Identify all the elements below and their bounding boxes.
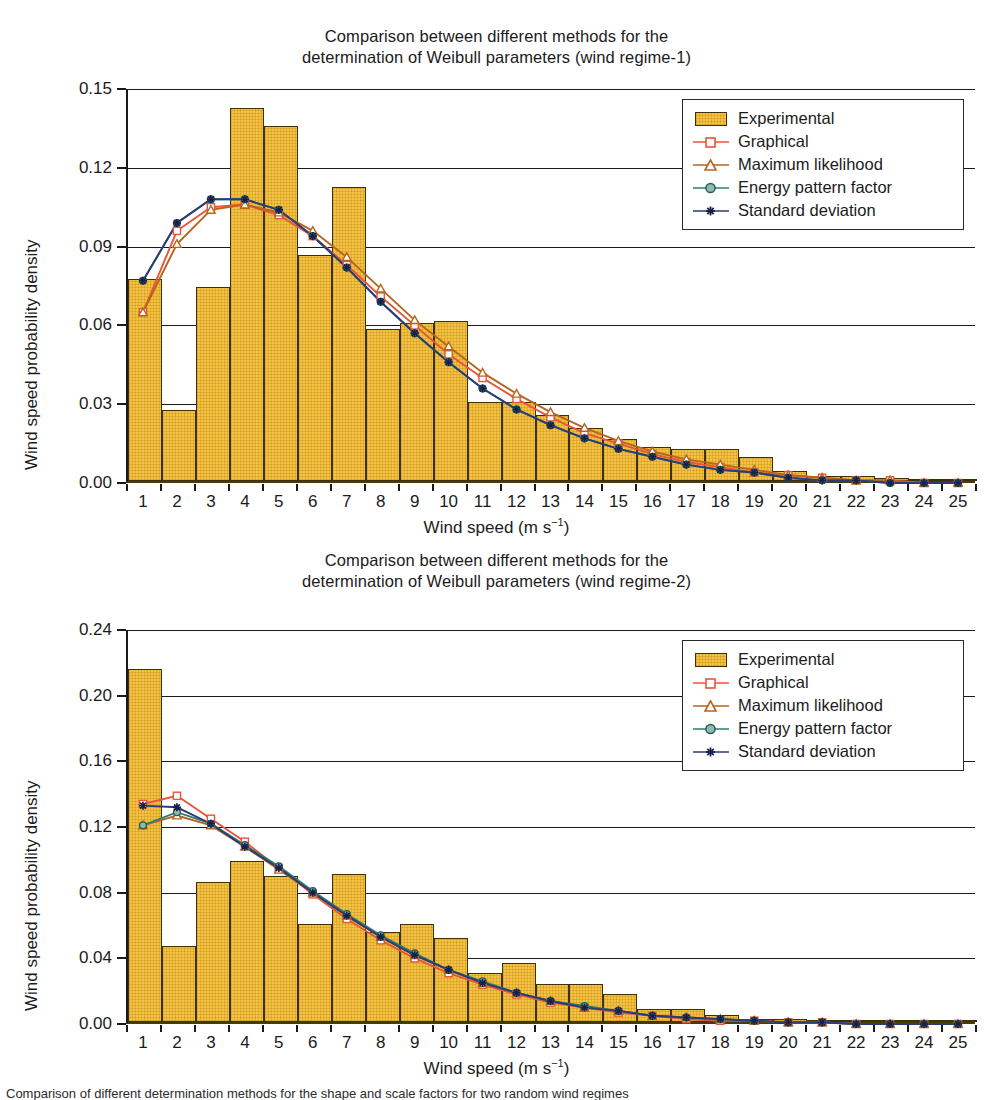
legend-marker-open-triangle-icon — [692, 155, 730, 175]
x-axis-tick — [398, 484, 400, 491]
x-axis-tick — [703, 1025, 705, 1032]
series-line-energy-pattern-factor — [143, 812, 958, 1024]
legend-marker-filled-circle-icon — [692, 178, 730, 198]
x-axis-tick — [601, 1025, 603, 1032]
x-axis-tick — [330, 1025, 332, 1032]
legend-swatch-bar-icon — [692, 109, 730, 129]
legend-item-maximum-likelihood[interactable]: Maximum likelihood — [692, 694, 952, 717]
x-axis-tick-label: 10 — [439, 492, 458, 512]
x-axis-tick — [160, 1025, 162, 1032]
x-axis-tick — [126, 1025, 128, 1032]
x-axis-tick-label: 11 — [474, 1033, 492, 1053]
x-axis-tick — [500, 484, 502, 491]
y-axis-tick — [117, 482, 126, 484]
y-axis-tick — [117, 88, 126, 90]
x-axis-tick-label: 4 — [240, 492, 249, 512]
legend-item-experimental[interactable]: Experimental — [692, 648, 952, 671]
x-axis-tick — [296, 484, 298, 491]
legend-marker-open-triangle-icon — [692, 696, 730, 716]
legend-item-standard-deviation[interactable]: Standard deviation — [692, 199, 952, 222]
x-axis-tick — [635, 1025, 637, 1032]
x-axis-tick-label: 2 — [172, 492, 181, 512]
x-axis-tick-label: 12 — [507, 492, 526, 512]
legend-marker-asterisk-icon — [692, 201, 730, 221]
x-axis-tick — [228, 1025, 230, 1032]
legend-label: Maximum likelihood — [738, 155, 883, 174]
y-axis-tick — [117, 1023, 126, 1025]
chart2-y-axis-title: Wind speed probability density — [22, 780, 42, 1011]
chart2-title-line1: Comparison between different methods for… — [0, 550, 993, 571]
series-line-standard-deviation — [143, 199, 958, 483]
y-axis-tick — [117, 167, 126, 169]
legend-item-graphical[interactable]: Graphical — [692, 671, 952, 694]
x-axis-tick-label: 9 — [410, 492, 419, 512]
x-axis-tick-label: 6 — [308, 1033, 317, 1053]
chart2-x-axis-title: Wind speed (m s−1) — [0, 1057, 993, 1079]
x-axis-tick — [534, 1025, 536, 1032]
chart1-title-line1: Comparison between different methods for… — [0, 26, 993, 47]
legend-item-experimental[interactable]: Experimental — [692, 107, 952, 130]
x-axis-tick-label: 22 — [847, 492, 866, 512]
y-axis-tick-label: 0.12 — [79, 817, 112, 837]
y-axis-tick-label: 0.00 — [79, 1014, 112, 1034]
x-axis-tick — [737, 484, 739, 491]
x-axis-tick — [975, 1025, 977, 1032]
x-axis-tick-label: 12 — [507, 1033, 526, 1053]
y-axis-tick — [117, 629, 126, 631]
legend-item-energy-pattern-factor[interactable]: Energy pattern factor — [692, 717, 952, 740]
y-axis-tick-label: 0.24 — [79, 620, 112, 640]
x-axis-tick-label: 2 — [172, 1033, 181, 1053]
x-axis-tick — [601, 484, 603, 491]
x-axis-tick-label: 18 — [711, 1033, 730, 1053]
x-axis-tick — [873, 484, 875, 491]
x-axis-tick — [839, 1025, 841, 1032]
x-axis-tick-label: 4 — [240, 1033, 249, 1053]
legend-item-energy-pattern-factor[interactable]: Energy pattern factor — [692, 176, 952, 199]
chart1-x-axis-title-text: Wind speed (m s−1) — [424, 518, 570, 537]
x-axis-tick — [432, 1025, 434, 1032]
x-axis-tick-label: 8 — [376, 492, 385, 512]
x-axis-tick-label: 16 — [643, 1033, 662, 1053]
x-axis-tick-label: 17 — [677, 492, 696, 512]
x-axis-tick — [500, 1025, 502, 1032]
x-axis-tick — [669, 1025, 671, 1032]
x-axis-tick — [907, 484, 909, 491]
series-line-graphical — [143, 796, 958, 1024]
x-axis-tick — [466, 1025, 468, 1032]
x-axis-tick — [228, 484, 230, 491]
y-axis-tick — [117, 760, 126, 762]
x-axis-tick-label: 10 — [439, 1033, 458, 1053]
x-axis-tick — [398, 1025, 400, 1032]
y-axis-tick-label: 0.20 — [79, 686, 112, 706]
x-axis-tick — [941, 484, 943, 491]
x-axis-tick-label: 21 — [813, 1033, 832, 1053]
x-axis-tick — [364, 484, 366, 491]
legend-marker-open-square-icon — [692, 673, 730, 693]
x-axis-tick-label: 24 — [915, 1033, 934, 1053]
legend-item-maximum-likelihood[interactable]: Maximum likelihood — [692, 153, 952, 176]
x-axis-tick-label: 16 — [643, 492, 662, 512]
figure-container: Comparison between different methods for… — [0, 0, 993, 1100]
legend-label: Experimental — [738, 109, 834, 128]
chart1-x-axis-title: Wind speed (m s−1) — [0, 516, 993, 538]
x-axis-tick — [669, 484, 671, 491]
legend-label: Energy pattern factor — [738, 719, 892, 738]
legend-item-graphical[interactable]: Graphical — [692, 130, 952, 153]
x-axis-tick-label: 9 — [410, 1033, 419, 1053]
x-axis-tick-label: 14 — [575, 1033, 594, 1053]
x-axis-tick — [432, 484, 434, 491]
x-axis-tick-label: 6 — [308, 492, 317, 512]
x-axis-tick-label: 7 — [342, 1033, 351, 1053]
y-axis-tick-label: 0.00 — [79, 473, 112, 493]
legend-label: Graphical — [738, 132, 809, 151]
y-axis-tick — [117, 892, 126, 894]
x-axis-tick — [160, 484, 162, 491]
x-axis-tick — [296, 1025, 298, 1032]
legend-label: Standard deviation — [738, 201, 876, 220]
legend-item-standard-deviation[interactable]: Standard deviation — [692, 740, 952, 763]
legend-label: Experimental — [738, 650, 834, 669]
y-axis-tick-label: 0.12 — [79, 158, 112, 178]
x-axis-tick-label: 22 — [847, 1033, 866, 1053]
legend-marker-asterisk-icon — [692, 742, 730, 762]
x-axis-tick — [194, 484, 196, 491]
